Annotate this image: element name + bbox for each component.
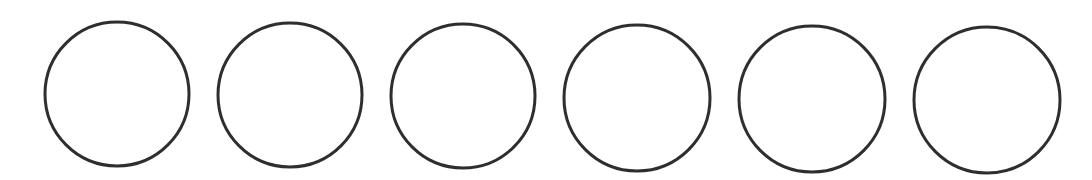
circle-4	[564, 25, 710, 171]
circles-diagram	[0, 0, 1092, 180]
circle-2	[218, 23, 362, 167]
circle-3	[391, 24, 535, 168]
circle-5	[739, 26, 885, 172]
circle-1	[45, 22, 189, 166]
circle-6	[914, 27, 1060, 173]
